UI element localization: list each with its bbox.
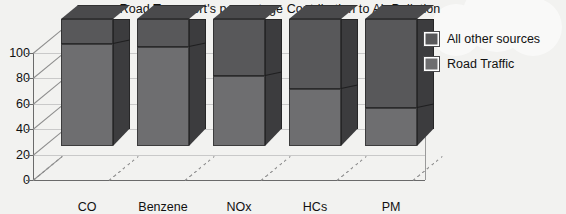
bar-segment-all-other-sources: [365, 19, 417, 108]
legend-label: Road Traffic: [447, 57, 514, 71]
bar-segment-road-traffic: [61, 44, 113, 146]
bar-side-face: [341, 19, 358, 146]
bar-segment-road-traffic: [137, 47, 189, 146]
legend-swatch-icon: [424, 32, 439, 46]
bar-side-face: [265, 19, 282, 146]
bar-segment-all-other-sources: [213, 19, 265, 76]
bar-segment-road-traffic: [365, 108, 417, 146]
y-axis-line: [33, 53, 34, 180]
x-tick-label-co: CO: [47, 200, 127, 214]
bar-side-face: [113, 19, 130, 146]
x-tick-label-benzene: Benzene: [123, 200, 203, 214]
x-tick-label-pm: PM: [351, 200, 431, 214]
x-tick-label-nox: NOx: [199, 200, 279, 214]
legend: All other sources Road Traffic: [424, 32, 552, 82]
legend-item-road-traffic[interactable]: Road Traffic: [424, 57, 552, 71]
bar-nox[interactable]: [213, 19, 265, 146]
bar-segment-all-other-sources: [289, 19, 341, 89]
bar-benzene[interactable]: [137, 19, 189, 146]
bar-segment-all-other-sources: [61, 19, 113, 44]
plot-area: 020406080100 COBenzeneNOxHCsPM: [0, 18, 430, 193]
legend-item-all-other-sources[interactable]: All other sources: [424, 32, 552, 46]
bar-segment-all-other-sources: [137, 19, 189, 47]
x-axis-line: [33, 180, 425, 181]
legend-label: All other sources: [447, 32, 540, 46]
bar-pm[interactable]: [365, 19, 417, 146]
bar-segment-road-traffic: [289, 89, 341, 146]
legend-swatch-icon: [424, 57, 439, 71]
bar-hcs[interactable]: [289, 19, 341, 146]
bar-co[interactable]: [61, 19, 113, 146]
bar-segment-road-traffic: [213, 76, 265, 146]
bar-side-face: [189, 19, 206, 146]
x-tick-label-hcs: HCs: [275, 200, 355, 214]
